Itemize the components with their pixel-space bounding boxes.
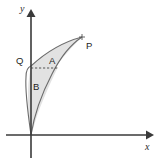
coordinate-diagram: y x Q P A B xyxy=(0,0,160,165)
y-axis-arrow-icon xyxy=(27,9,36,17)
region-label-b: B xyxy=(33,81,39,92)
x-axis-label: x xyxy=(144,141,150,152)
point-label-q: Q xyxy=(16,55,23,66)
figure-container: y x Q P A B xyxy=(0,0,160,165)
region-label-a: A xyxy=(49,55,56,66)
point-label-p: P xyxy=(86,40,92,51)
y-axis-label: y xyxy=(19,3,25,14)
x-axis-arrow-icon xyxy=(146,131,154,140)
